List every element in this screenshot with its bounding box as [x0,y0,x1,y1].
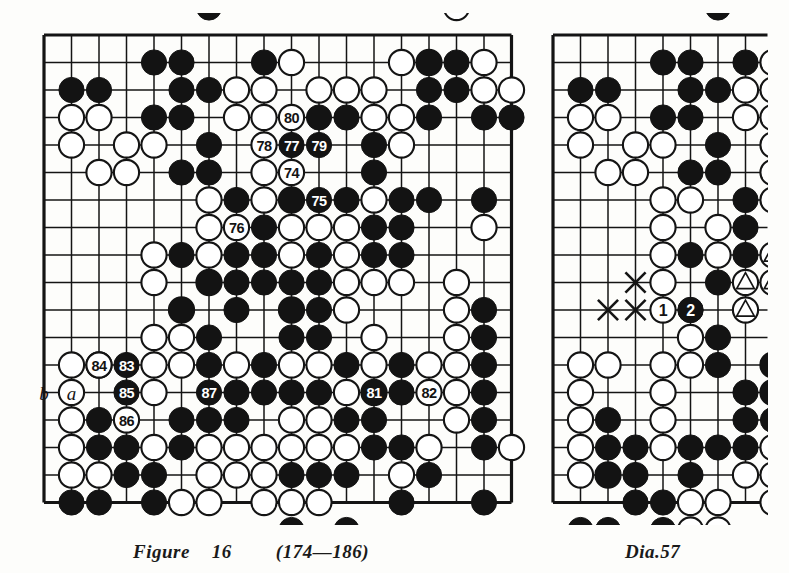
white-stone[interactable] [678,490,703,515]
white-stone[interactable] [361,77,386,102]
white-stone[interactable] [279,435,304,460]
white-stone[interactable] [196,490,221,515]
white-stone[interactable] [678,187,703,212]
black-stone[interactable] [306,297,331,322]
white-stone[interactable] [568,132,593,157]
white-stone[interactable] [760,462,767,487]
black-stone[interactable] [169,77,194,102]
white-stone[interactable] [760,187,767,212]
black-stone[interactable] [251,270,276,295]
black-stone[interactable] [678,435,703,460]
white-stone[interactable] [196,215,221,240]
white-stone[interactable] [705,242,730,267]
white-stone[interactable] [141,242,166,267]
black-stone[interactable] [86,435,111,460]
white-stone[interactable] [760,105,767,130]
black-stone[interactable] [678,77,703,102]
black-stone[interactable] [279,325,304,350]
black-stone[interactable] [733,215,758,240]
white-stone[interactable] [568,380,593,405]
white-stone[interactable] [141,132,166,157]
white-stone[interactable] [279,407,304,432]
white-stone[interactable] [251,435,276,460]
black-stone[interactable] [224,380,249,405]
white-stone[interactable] [444,380,469,405]
white-stone[interactable] [678,352,703,377]
white-stone[interactable] [334,215,359,240]
white-stone[interactable] [416,435,441,460]
white-stone[interactable] [595,352,620,377]
white-stone[interactable] [141,270,166,295]
black-stone[interactable] [623,462,648,487]
black-stone[interactable] [623,435,648,460]
black-stone[interactable] [568,517,593,524]
white-stone[interactable] [568,462,593,487]
white-stone[interactable] [306,215,331,240]
black-stone[interactable] [678,50,703,75]
black-stone[interactable] [334,187,359,212]
white-stone[interactable] [334,380,359,405]
black-stone[interactable] [86,407,111,432]
black-stone[interactable] [471,297,496,322]
black-stone[interactable] [141,462,166,487]
black-stone[interactable] [389,242,414,267]
black-stone[interactable] [705,352,730,377]
white-stone[interactable] [141,380,166,405]
white-stone[interactable] [650,407,675,432]
white-stone[interactable] [361,352,386,377]
black-stone[interactable] [733,435,758,460]
black-stone[interactable] [416,105,441,130]
white-stone[interactable] [444,352,469,377]
white-stone[interactable] [705,490,730,515]
white-stone[interactable] [595,160,620,185]
white-stone[interactable] [334,77,359,102]
black-stone[interactable] [306,105,331,130]
black-stone[interactable] [169,242,194,267]
white-stone[interactable] [678,325,703,350]
white-stone[interactable] [760,50,767,75]
white-stone[interactable] [471,50,496,75]
white-stone[interactable] [389,50,414,75]
white-stone[interactable] [760,160,767,185]
black-stone[interactable] [416,462,441,487]
white-stone[interactable] [760,132,767,157]
black-stone[interactable] [705,435,730,460]
white-stone[interactable] [114,132,139,157]
black-stone[interactable] [678,105,703,130]
black-stone[interactable] [361,132,386,157]
white-stone[interactable] [623,160,648,185]
black-stone[interactable] [334,462,359,487]
black-stone[interactable] [650,50,675,75]
white-stone[interactable] [141,352,166,377]
white-stone[interactable] [306,435,331,460]
black-stone[interactable] [59,490,84,515]
black-stone[interactable] [224,187,249,212]
white-stone[interactable] [568,352,593,377]
black-stone[interactable] [196,270,221,295]
white-stone[interactable] [279,50,304,75]
white-stone[interactable] [623,132,648,157]
black-stone[interactable] [444,50,469,75]
white-stone[interactable] [114,160,139,185]
white-stone[interactable] [733,105,758,130]
black-stone[interactable] [678,160,703,185]
white-stone[interactable] [59,407,84,432]
white-stone[interactable] [306,407,331,432]
white-stone[interactable] [86,105,111,130]
black-stone[interactable] [568,77,593,102]
black-stone[interactable] [471,407,496,432]
white-stone[interactable] [59,435,84,460]
white-stone[interactable] [760,77,767,102]
black-stone[interactable] [141,50,166,75]
black-stone[interactable] [471,187,496,212]
black-stone[interactable] [169,435,194,460]
white-stone[interactable] [471,77,496,102]
black-stone[interactable] [471,435,496,460]
white-stone[interactable] [416,352,441,377]
white-stone[interactable] [196,187,221,212]
white-stone[interactable] [361,187,386,212]
black-stone[interactable] [705,325,730,350]
black-stone[interactable] [196,77,221,102]
white-stone[interactable] [86,160,111,185]
black-stone[interactable] [389,380,414,405]
